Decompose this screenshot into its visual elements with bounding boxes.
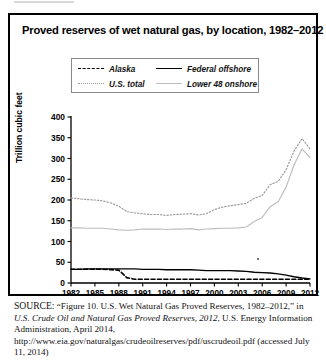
legend-row: Alaska Federal offshore (72, 62, 260, 76)
figure-title: Proved reserves of wet natural gas, by l… (22, 24, 323, 36)
legend-item-us-total: U.S. total (78, 77, 144, 91)
source-text-1: “Figure 10. U.S. Wet Natural Gas Proved … (57, 301, 304, 311)
source-italic-title: U.S. Crude Oil and Natural Gas Proved Re… (14, 313, 218, 323)
source-note: SOURCE: “Figure 10. U.S. Wet Natural Gas… (14, 300, 314, 359)
legend-item-lower-48-onshore: Lower 48 onshore (156, 77, 257, 91)
scan-speck (257, 258, 259, 260)
legend-label-federal-offshore: Federal offshore (187, 65, 251, 74)
legend-label-lower-48-onshore: Lower 48 onshore (187, 80, 257, 89)
figure-container: Proved reserves of wet natural gas, by l… (8, 13, 318, 296)
legend-row: U.S. total Lower 48 onshore (72, 77, 260, 91)
legend-swatch-solid-black-icon (156, 68, 182, 69)
legend-swatch-solid-gray-icon (156, 83, 182, 84)
scan-artifact-strip (0, 0, 326, 6)
legend-item-alaska: Alaska (78, 62, 135, 76)
legend-swatch-dotted-icon (78, 83, 104, 84)
source-prefix: SOURCE: (14, 300, 55, 311)
legend-item-federal-offshore: Federal offshore (156, 62, 251, 76)
legend-label-alaska: Alaska (109, 65, 135, 74)
legend-label-us-total: U.S. total (109, 80, 144, 89)
chart-legend: Alaska Federal offshore U.S. total Lower… (71, 58, 259, 93)
legend-swatch-dashed-icon (78, 68, 104, 69)
y-axis-title: Trillion cubic feet (14, 73, 24, 163)
